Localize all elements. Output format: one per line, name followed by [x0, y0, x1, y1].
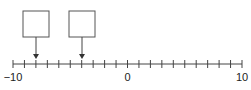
arrow-2-head-icon	[79, 54, 85, 59]
label-min: −10	[4, 71, 23, 83]
label-max: 10	[236, 71, 248, 83]
arrow-1-head-icon	[33, 54, 39, 59]
number-line-diagram: −10 0 10	[0, 0, 251, 90]
label-zero: 0	[124, 71, 130, 83]
answer-box-1[interactable]	[23, 11, 49, 37]
answer-box-2[interactable]	[69, 11, 95, 37]
tick-marks	[13, 60, 242, 68]
